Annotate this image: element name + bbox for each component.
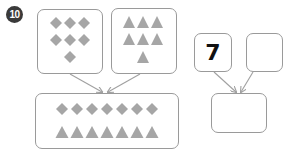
- arrow-right-a: [214, 72, 236, 92]
- diamond-icon: [56, 103, 68, 115]
- triangle-icon: [151, 16, 163, 28]
- triangle-icon: [137, 51, 149, 63]
- diamond-icon: [101, 103, 113, 115]
- diamond-icon: [71, 103, 83, 115]
- diamond-icon: [131, 103, 143, 115]
- arrow-left-b: [108, 74, 140, 92]
- diamond-icon: [78, 34, 90, 46]
- triangle-icon: [71, 126, 84, 138]
- diamond-icons-group: [50, 17, 90, 63]
- triangle-icons-group: [123, 16, 163, 63]
- triangle-icon: [137, 33, 149, 45]
- diamond-icon: [78, 17, 90, 29]
- triangle-icon: [116, 126, 129, 138]
- shapes-and-arrows-layer: [0, 0, 283, 152]
- triangle-icon: [56, 126, 69, 138]
- diamond-icon: [64, 17, 76, 29]
- triangle-icon: [101, 126, 114, 138]
- triangle-icon: [151, 33, 163, 45]
- triangle-icon: [123, 16, 135, 28]
- diamond-icon: [116, 103, 128, 115]
- arrow-left-a: [70, 74, 102, 92]
- diamond-icon: [50, 17, 62, 29]
- triangle-icon: [86, 126, 99, 138]
- combined-shapes-group: [56, 103, 159, 138]
- triangle-icon: [131, 126, 144, 138]
- diamond-icon: [64, 34, 76, 46]
- diamond-icon: [146, 103, 158, 115]
- diamond-icon: [50, 34, 62, 46]
- arrows: [70, 72, 253, 92]
- diamond-icon: [86, 103, 98, 115]
- triangle-icon: [146, 126, 159, 138]
- arrow-right-b: [241, 72, 253, 92]
- triangle-icon: [123, 33, 135, 45]
- triangle-icon: [137, 16, 149, 28]
- diamond-icon: [64, 51, 76, 63]
